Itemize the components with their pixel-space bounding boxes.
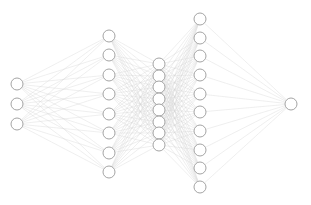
- node-hidden-layer-2-n2-1: [153, 70, 165, 82]
- node-hidden-layer-3-n3-4: [194, 88, 206, 100]
- node-hidden-layer-3-n3-7: [194, 144, 206, 156]
- neural-network-diagram: [0, 0, 311, 205]
- node-hidden-layer-1-n1-2: [103, 69, 115, 81]
- node-hidden-layer-2-n2-2: [153, 81, 165, 93]
- node-hidden-layer-3-n3-1: [194, 32, 206, 44]
- node-hidden-layer-2-n2-6: [153, 127, 165, 139]
- node-hidden-layer-2-n2-0: [153, 58, 165, 70]
- node-hidden-layer-3-n3-8: [194, 162, 206, 174]
- node-hidden-layer-3-n3-6: [194, 125, 206, 137]
- node-hidden-layer-1-n1-5: [103, 127, 115, 139]
- node-hidden-layer-1-n1-1: [103, 49, 115, 61]
- node-hidden-layer-1-n1-3: [103, 88, 115, 100]
- node-hidden-layer-1-n1-7: [103, 166, 115, 178]
- node-hidden-layer-3-n3-5: [194, 106, 206, 118]
- node-hidden-layer-1-n1-4: [103, 108, 115, 120]
- node-input-layer-n0-2: [11, 118, 23, 130]
- node-input-layer-n0-1: [11, 98, 23, 110]
- node-output-layer-n4-0: [285, 98, 297, 110]
- neural-network-canvas: [0, 0, 311, 205]
- node-hidden-layer-2-n2-5: [153, 116, 165, 128]
- node-hidden-layer-2-n2-3: [153, 93, 165, 105]
- node-hidden-layer-2-n2-7: [153, 139, 165, 151]
- node-hidden-layer-2-n2-4: [153, 104, 165, 116]
- node-hidden-layer-3-n3-3: [194, 69, 206, 81]
- node-hidden-layer-3-n3-9: [194, 181, 206, 193]
- node-hidden-layer-3-n3-2: [194, 50, 206, 62]
- node-hidden-layer-3-n3-0: [194, 13, 206, 25]
- node-hidden-layer-1-n1-6: [103, 147, 115, 159]
- node-input-layer-n0-0: [11, 78, 23, 90]
- node-hidden-layer-1-n1-0: [103, 30, 115, 42]
